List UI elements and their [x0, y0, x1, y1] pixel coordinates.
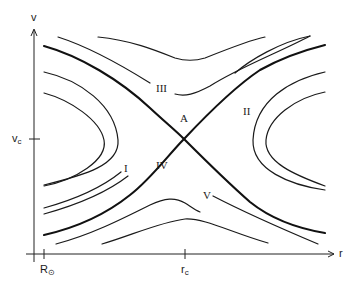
phase-diagram	[0, 0, 356, 289]
critical-point-A-label: A	[180, 113, 188, 124]
region-III-label: III	[156, 83, 167, 94]
vc-label: vc	[12, 133, 22, 144]
rsun-label: R⊙	[40, 264, 55, 275]
curve-type-V-upper	[56, 199, 200, 244]
region-IV-label: IV	[156, 160, 168, 171]
curve-type-I-outer	[44, 72, 118, 185]
curve-type-III-right	[175, 36, 310, 95]
curve-type-II-innermost	[266, 92, 325, 186]
region-I-label: I	[124, 163, 128, 174]
rc-label: rc	[181, 264, 189, 275]
region-II-label: II	[243, 106, 250, 117]
curve-type-V-bottom	[102, 219, 268, 244]
curve-type-I-inner	[44, 93, 104, 186]
region-V-label: V	[203, 190, 211, 201]
curve-type-V-right	[213, 196, 318, 244]
curve-type-I-lower	[44, 172, 121, 208]
y-axis-label: v	[31, 12, 37, 23]
curve-type-II-inner	[253, 72, 325, 190]
x-axis-label: r	[339, 248, 343, 259]
curve-type-III-top	[98, 37, 265, 60]
